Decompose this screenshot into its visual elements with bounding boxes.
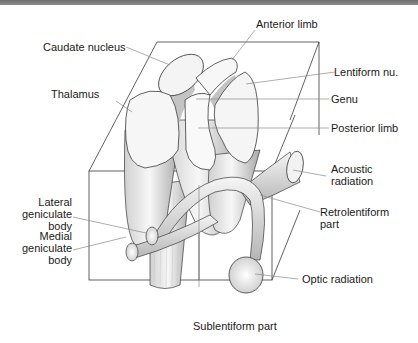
label-retrolentiform-part: Retrolentiform part	[320, 206, 389, 230]
label-thalamus: Thalamus	[51, 88, 99, 100]
label-caudate-nucleus: Caudate nucleus	[43, 41, 126, 53]
label-medial-line1: Medial	[22, 230, 72, 242]
label-anterior-limb: Anterior limb	[256, 18, 318, 30]
label-lentiform-nucleus: Lentiform nu.	[334, 66, 398, 78]
label-lateral-line2: geniculate	[22, 208, 72, 220]
label-medial-line2: geniculate	[22, 242, 72, 254]
thalamus	[126, 91, 180, 168]
label-acoustic-line2: radiation	[331, 175, 373, 187]
label-medial-line3: body	[22, 254, 72, 266]
label-genu: Genu	[331, 93, 358, 105]
label-optic-radiation: Optic radiation	[302, 273, 373, 285]
label-posterior-limb: Posterior limb	[331, 122, 398, 134]
label-medial-geniculate-body: Medial geniculate body	[22, 230, 72, 266]
label-retro-line1: Retrolentiform	[320, 206, 389, 218]
medial-geniculate-body	[126, 243, 138, 261]
label-lateral-line1: Lateral	[22, 196, 72, 208]
label-acoustic-radiation: Acoustic radiation	[331, 163, 373, 187]
label-acoustic-line1: Acoustic	[331, 163, 373, 175]
optic-radiation-end	[229, 257, 263, 293]
label-sublentiform-part: Sublentiform part	[193, 320, 277, 332]
label-lateral-geniculate-body: Lateral geniculate body	[22, 196, 72, 232]
label-retro-line2: part	[320, 218, 389, 230]
lateral-geniculate-body	[146, 227, 158, 245]
